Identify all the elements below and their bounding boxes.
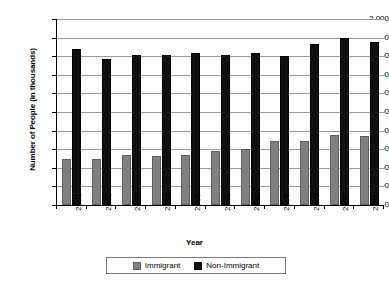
legend-swatch-immigrant-icon [133, 262, 141, 270]
bar-non-immigrant-2002 [102, 59, 111, 205]
x-tick-label-2004: 2004 [164, 193, 172, 211]
bar-immigrant-2005 [181, 155, 190, 205]
bar-non-immigrant-2011 [370, 42, 379, 205]
x-tick-label-2002: 2002 [105, 193, 113, 211]
bar-chart: Number of People (in thousands) 2,0001,8… [0, 0, 389, 282]
x-tick-mark [324, 205, 325, 209]
legend-item-immigrant[interactable]: Immigrant [133, 261, 181, 270]
bar-group-2001 [57, 19, 87, 205]
bar-immigrant-2009 [300, 141, 309, 205]
x-tick-label-2009: 2009 [313, 193, 321, 211]
bar-group-2003 [116, 19, 146, 205]
bar-non-immigrant-2009 [310, 44, 319, 205]
x-tick-label-2008: 2008 [283, 193, 291, 211]
bar-non-immigrant-2003 [132, 55, 141, 205]
x-tick-mark [294, 205, 295, 209]
x-tick-mark [145, 205, 146, 209]
x-tick-mark [56, 205, 57, 209]
x-tick-mark [175, 205, 176, 209]
x-tick-label-2003: 2003 [134, 193, 142, 211]
x-tick-mark [234, 205, 235, 209]
bar-immigrant-2002 [92, 159, 101, 206]
bar-group-2004 [146, 19, 176, 205]
x-tick-mark [86, 205, 87, 209]
legend-label: Immigrant [145, 261, 181, 270]
bar-non-immigrant-2001 [72, 49, 81, 205]
x-tick-label-2010: 2010 [342, 193, 350, 211]
bar-group-2006 [206, 19, 236, 205]
bar-immigrant-2004 [152, 156, 161, 205]
bar-immigrant-2007 [241, 149, 250, 205]
legend-item-nonimmigrant[interactable]: Non-Immigrant [194, 261, 259, 270]
bar-group-2007 [235, 19, 265, 205]
x-axis-title: Year [0, 238, 389, 247]
legend-swatch-nonimmigrant-icon [194, 262, 202, 270]
bar-group-2005 [176, 19, 206, 205]
x-tick-mark [353, 205, 354, 209]
bar-group-2002 [87, 19, 117, 205]
bar-immigrant-2001 [62, 159, 71, 206]
bar-non-immigrant-2010 [340, 38, 349, 205]
x-tick-mark [383, 205, 384, 209]
legend-label: Non-Immigrant [206, 261, 259, 270]
bar-group-2011 [354, 19, 384, 205]
x-tick-label-2005: 2005 [194, 193, 202, 211]
x-tick-mark [205, 205, 206, 209]
bar-non-immigrant-2005 [191, 53, 200, 205]
y-axis-title: Number of People (in thousands) [28, 20, 37, 200]
x-tick-label-2011: 2011 [372, 194, 380, 211]
bar-non-immigrant-2008 [280, 56, 289, 205]
plot-area [56, 19, 384, 206]
x-tick-label-2001: 2001 [75, 193, 83, 211]
bar-non-immigrant-2004 [162, 55, 171, 205]
bar-group-2010 [325, 19, 355, 205]
bar-immigrant-2006 [211, 151, 220, 205]
bar-immigrant-2010 [330, 135, 339, 205]
bar-group-2008 [265, 19, 295, 205]
x-tick-mark [264, 205, 265, 209]
bar-group-2009 [295, 19, 325, 205]
chart-legend: ImmigrantNon-Immigrant [106, 257, 286, 274]
bar-immigrant-2003 [122, 155, 131, 205]
x-tick-label-2007: 2007 [253, 193, 261, 211]
x-tick-mark [115, 205, 116, 209]
bar-immigrant-2011 [360, 136, 369, 205]
bar-non-immigrant-2006 [221, 55, 230, 205]
x-tick-label-2006: 2006 [224, 193, 232, 211]
bar-immigrant-2008 [270, 141, 279, 205]
bar-non-immigrant-2007 [251, 53, 260, 205]
